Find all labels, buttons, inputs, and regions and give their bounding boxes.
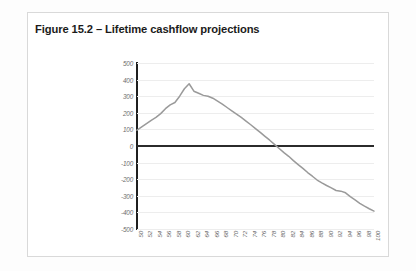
x-tick-label: 70 bbox=[232, 231, 239, 238]
x-tick-label: 58 bbox=[175, 231, 182, 238]
screenshot-root: Figure 15.2 – Lifetime cashflow projecti… bbox=[0, 0, 416, 271]
x-tick-label: 52 bbox=[146, 231, 153, 238]
x-tick-label: 56 bbox=[165, 231, 172, 238]
figure-title: Figure 15.2 – Lifetime cashflow projecti… bbox=[35, 23, 259, 35]
x-tick-label: 94 bbox=[346, 231, 353, 238]
x-tick-label: 66 bbox=[213, 231, 220, 238]
x-tick-label: 68 bbox=[222, 231, 229, 238]
y-tick-label: 400 bbox=[123, 76, 133, 83]
x-tick-label: 88 bbox=[317, 231, 324, 238]
x-tick-label: 100 bbox=[374, 231, 381, 241]
y-tick-label: -500 bbox=[121, 226, 133, 233]
x-tick-label: 50 bbox=[137, 231, 144, 238]
line-series bbox=[137, 63, 374, 229]
x-tick-label: 90 bbox=[327, 231, 334, 238]
x-tick-label: 76 bbox=[260, 231, 267, 238]
y-tick-label: -300 bbox=[121, 192, 133, 199]
y-tick-label: 500 bbox=[123, 60, 133, 67]
y-tick-label: -100 bbox=[121, 159, 133, 166]
y-tick-label: -200 bbox=[121, 176, 133, 183]
y-tick-label: -400 bbox=[121, 209, 133, 216]
y-tick-label: 300 bbox=[123, 93, 133, 100]
x-tick-label: 80 bbox=[279, 231, 286, 238]
x-tick-label: 54 bbox=[156, 231, 163, 238]
x-tick-label: 74 bbox=[251, 231, 258, 238]
x-tick-label: 62 bbox=[194, 231, 201, 238]
figure-card: Figure 15.2 – Lifetime cashflow projecti… bbox=[27, 12, 389, 257]
x-tick-label: 96 bbox=[355, 231, 362, 238]
x-tick-label: 64 bbox=[203, 231, 210, 238]
y-tick-label: 100 bbox=[123, 126, 133, 133]
chart-container: 5004003002001000-100-200-300-400-500 505… bbox=[69, 51, 381, 251]
x-tick-label: 78 bbox=[270, 231, 277, 238]
x-tick-label: 72 bbox=[241, 231, 248, 238]
x-tick-label: 92 bbox=[336, 231, 343, 238]
x-tick-label: 86 bbox=[308, 231, 315, 238]
x-tick-label: 82 bbox=[289, 231, 296, 238]
x-tick-label: 84 bbox=[298, 231, 305, 238]
chart-plot-area: 5004003002001000-100-200-300-400-500 505… bbox=[137, 63, 374, 229]
x-tick-label: 98 bbox=[365, 231, 372, 238]
y-tick-label: 200 bbox=[123, 109, 133, 116]
x-tick-label: 60 bbox=[184, 231, 191, 238]
y-tick-label: 0 bbox=[130, 143, 133, 150]
